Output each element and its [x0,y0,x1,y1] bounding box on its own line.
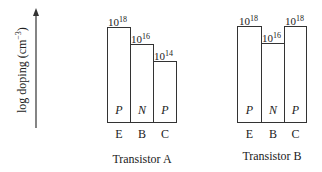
type-b-collector: P [284,104,307,116]
doping-a-base: 1016 [131,31,150,45]
doping-b-base: 1016 [262,30,281,44]
doping-a-collector: 1014 [154,48,173,62]
doping-b-emitter: 1018 [239,13,258,27]
type-a-collector: P [153,104,177,116]
type-b-base: N [261,104,285,116]
terminal-a-c: C [153,128,177,140]
y-axis-label: log doping (cm−3) [14,27,30,113]
type-b-emitter: P [237,104,262,116]
caption-transistor-a: Transistor A [102,153,182,165]
terminal-b-c: C [284,128,307,140]
terminal-a-b: B [130,128,154,140]
terminal-a-e: E [107,128,131,140]
type-a-base: N [130,104,154,116]
y-axis-arrow [30,8,42,130]
caption-transistor-b: Transistor B [232,150,312,162]
doping-a-emitter: 1018 [108,14,127,28]
terminal-b-e: E [237,128,262,140]
terminal-b-b: B [261,128,285,140]
type-a-emitter: P [107,104,131,116]
doping-b-collector: 1018 [285,13,304,27]
